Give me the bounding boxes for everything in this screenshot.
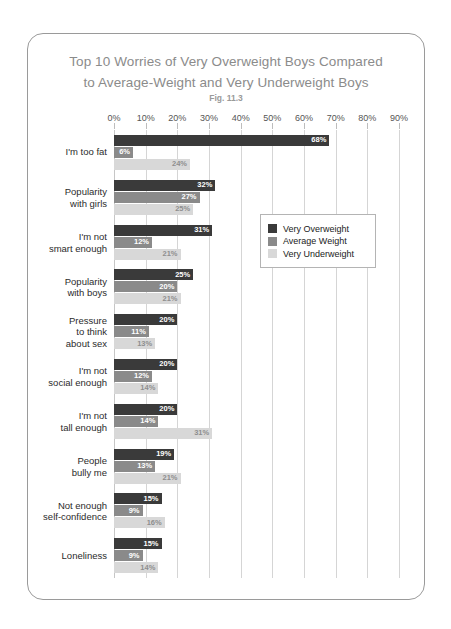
x-axis-tick-label: 0%	[107, 113, 120, 123]
x-axis-tick-label: 20%	[168, 113, 186, 123]
category-label: I'm not tall enough	[0, 410, 107, 433]
x-axis-tick-label: 50%	[263, 113, 281, 123]
chart-figure-number: Fig. 11.3	[28, 93, 424, 103]
legend-item: Average Weight	[268, 236, 368, 246]
bar-group: Not enough self-confidence15%9%16%	[114, 493, 399, 528]
x-axis-tick-label: 60%	[295, 113, 313, 123]
bar-1: 14%	[114, 416, 158, 427]
bar-1: 11%	[114, 326, 149, 337]
category-label: I'm not smart enough	[0, 231, 107, 254]
bar-2: 21%	[114, 249, 181, 260]
bar-group: Popularity with boys25%20%21%	[114, 269, 399, 304]
chart-title-line-2: to Average-Weight and Very Underweight B…	[28, 72, 424, 93]
x-axis-tick-label: 70%	[327, 113, 345, 123]
bar-2: 21%	[114, 293, 181, 304]
category-label: I'm too fat	[0, 147, 107, 159]
bar-value-label: 14%	[140, 417, 155, 425]
plot-area: 0%10%20%30%40%50%60%70%80%90%I'm too fat…	[114, 130, 399, 578]
bar-0: 15%	[114, 493, 162, 504]
category-label: Popularity with girls	[0, 186, 107, 209]
category-label: I'm not social enough	[0, 365, 107, 388]
bar-value-label: 14%	[140, 385, 155, 393]
x-tick-mark	[367, 123, 368, 129]
bar-value-label: 24%	[172, 161, 187, 169]
x-tick-mark	[336, 123, 337, 129]
bar-0: 20%	[114, 404, 177, 415]
bar-value-label: 13%	[137, 340, 152, 348]
legend-swatch-icon	[268, 237, 277, 246]
bar-1: 20%	[114, 281, 177, 292]
bar-0: 32%	[114, 180, 215, 191]
bar-value-label: 31%	[194, 226, 209, 234]
chart-title: Top 10 Worries of Very Overweight Boys C…	[28, 51, 424, 93]
bar-value-label: 21%	[162, 474, 177, 482]
bar-value-label: 20%	[159, 405, 174, 413]
x-tick-mark	[272, 123, 273, 129]
bar-0: 20%	[114, 314, 177, 325]
legend-item: Very Underweight	[268, 249, 368, 259]
chart-card: Top 10 Worries of Very Overweight Boys C…	[27, 33, 425, 600]
x-tick-mark	[399, 123, 400, 129]
x-axis-tick-label: 80%	[358, 113, 376, 123]
bar-value-label: 31%	[194, 429, 209, 437]
bar-1: 9%	[114, 550, 143, 561]
legend-label: Very Overweight	[283, 224, 349, 234]
x-tick-mark	[146, 123, 147, 129]
bar-value-label: 21%	[162, 295, 177, 303]
bar-value-label: 9%	[129, 552, 140, 560]
bar-0: 20%	[114, 359, 177, 370]
bar-value-label: 20%	[159, 361, 174, 369]
bar-value-label: 12%	[134, 238, 149, 246]
bar-0: 15%	[114, 538, 162, 549]
legend-swatch-icon	[268, 224, 277, 233]
x-axis-tick-label: 10%	[137, 113, 155, 123]
bar-1: 12%	[114, 237, 152, 248]
bar-value-label: 25%	[175, 205, 190, 213]
chart-legend: Very OverweightAverage WeightVery Underw…	[260, 214, 376, 268]
bar-0: 31%	[114, 225, 212, 236]
bar-2: 16%	[114, 517, 165, 528]
gridline-90	[399, 130, 400, 578]
category-label: Not enough self-confidence	[0, 499, 107, 522]
bar-2: 21%	[114, 473, 181, 484]
bar-value-label: 32%	[197, 181, 212, 189]
bar-value-label: 14%	[140, 564, 155, 572]
bar-value-label: 21%	[162, 250, 177, 258]
bar-group: I'm not tall enough20%14%31%	[114, 404, 399, 439]
bar-0: 19%	[114, 449, 174, 460]
bar-value-label: 11%	[131, 328, 146, 336]
x-tick-mark	[241, 123, 242, 129]
bar-1: 12%	[114, 371, 152, 382]
bar-value-label: 20%	[159, 283, 174, 291]
category-label: People bully me	[0, 455, 107, 478]
bar-group: I'm too fat68%6%24%	[114, 135, 399, 170]
x-tick-mark	[177, 123, 178, 129]
bar-group: Loneliness15%9%14%	[114, 538, 399, 573]
bar-2: 14%	[114, 562, 158, 573]
legend-label: Average Weight	[283, 236, 347, 246]
bar-2: 14%	[114, 383, 158, 394]
x-axis-tick-label: 30%	[200, 113, 218, 123]
category-label: Pressure to think about sex	[0, 314, 107, 349]
x-tick-mark	[114, 123, 115, 129]
category-label: Popularity with boys	[0, 275, 107, 298]
bar-value-label: 16%	[147, 519, 162, 527]
bar-1: 13%	[114, 461, 155, 472]
bar-1: 6%	[114, 147, 133, 158]
legend-item: Very Overweight	[268, 224, 368, 234]
bar-value-label: 15%	[143, 540, 158, 548]
bar-group: Popularity with girls32%27%25%	[114, 180, 399, 215]
bar-2: 31%	[114, 428, 212, 439]
bar-1: 27%	[114, 192, 200, 203]
x-tick-mark	[304, 123, 305, 129]
bar-2: 25%	[114, 204, 193, 215]
bar-value-label: 12%	[134, 373, 149, 381]
category-label: Loneliness	[0, 550, 107, 562]
bar-value-label: 6%	[119, 149, 130, 157]
bar-0: 25%	[114, 269, 193, 280]
x-axis-tick-label: 90%	[390, 113, 408, 123]
bar-2: 24%	[114, 159, 190, 170]
bar-value-label: 13%	[137, 462, 152, 470]
bar-value-label: 15%	[143, 495, 158, 503]
bar-0: 68%	[114, 135, 329, 146]
